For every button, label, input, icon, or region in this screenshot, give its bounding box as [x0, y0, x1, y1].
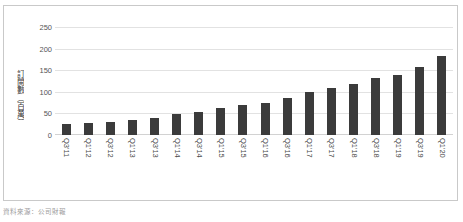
bar[interactable]: [261, 103, 270, 135]
x-axis-tick-label: Q1'17: [305, 138, 314, 158]
x-axis-tick-label: Q3'18: [371, 138, 380, 158]
bar[interactable]: [349, 84, 358, 135]
x-axis-tick-label: Q1'19: [393, 138, 402, 158]
x-axis-tick-labels: Q3'11Q1'12Q3'12Q1'13Q3'13Q1'14Q3'14Q1'15…: [55, 137, 453, 181]
x-axis-tick-label: Q3'19: [415, 138, 424, 158]
bar-series: [55, 27, 453, 135]
x-axis-tick-label: Q1'15: [216, 138, 225, 158]
x-axis-tick-label: Q3'14: [194, 138, 203, 158]
x-axis-tick: Q1'12: [84, 137, 93, 181]
chart-frame: 訂閱數（百萬） 250200150100500 Q3'11Q1'12Q3'12Q…: [3, 5, 458, 201]
x-axis-tick-label: Q1'13: [128, 138, 137, 158]
x-axis-tick-label: Q1'14: [172, 138, 181, 158]
y-axis-tick-150: 150: [26, 66, 52, 75]
x-axis-tick: Q3'11: [62, 137, 71, 181]
bar[interactable]: [283, 98, 292, 135]
bar[interactable]: [150, 118, 159, 135]
bar[interactable]: [128, 120, 137, 135]
x-axis-tick-label: Q1'16: [261, 138, 270, 158]
bar[interactable]: [393, 75, 402, 135]
x-axis-tick: Q1'20: [437, 137, 446, 181]
x-axis-tick: Q3'19: [415, 137, 424, 181]
x-axis-tick: Q3'17: [327, 137, 336, 181]
x-axis-tick: Q3'14: [194, 137, 203, 181]
y-axis-tick-0: 0: [26, 131, 52, 140]
x-axis-tick: Q3'16: [283, 137, 292, 181]
bar[interactable]: [437, 56, 446, 135]
x-axis-tick: Q1'17: [305, 137, 314, 181]
y-axis-tick-200: 200: [26, 44, 52, 53]
bar[interactable]: [106, 122, 115, 135]
x-axis-tick-label: Q1'12: [84, 138, 93, 158]
bar[interactable]: [62, 124, 71, 135]
x-axis-tick: Q3'18: [371, 137, 380, 181]
x-axis-tick-label: Q1'20: [437, 138, 446, 158]
bar[interactable]: [84, 123, 93, 135]
x-axis-tick-label: Q3'11: [62, 138, 71, 157]
x-axis-tick-label: Q3'15: [238, 138, 247, 158]
bar[interactable]: [194, 112, 203, 135]
bar[interactable]: [305, 92, 314, 135]
y-axis-tick-250: 250: [26, 23, 52, 32]
x-axis-tick-label: Q3'13: [150, 138, 159, 158]
bar[interactable]: [327, 88, 336, 135]
y-axis-tick-100: 100: [26, 87, 52, 96]
bar[interactable]: [216, 108, 225, 135]
x-axis-tick: Q1'15: [216, 137, 225, 181]
x-axis-tick-label: Q3'16: [283, 138, 292, 158]
x-axis-tick: Q3'12: [106, 137, 115, 181]
x-axis-tick-label: Q3'12: [106, 138, 115, 158]
x-axis-tick: Q1'16: [261, 137, 270, 181]
x-axis-tick: Q1'14: [172, 137, 181, 181]
x-axis-tick-label: Q3'17: [327, 138, 336, 158]
chart-caption: 資料來源：公司財報: [3, 206, 243, 216]
x-axis-tick: Q3'13: [150, 137, 159, 181]
y-axis-tick-labels: 250200150100500: [22, 6, 52, 202]
x-axis-tick: Q3'15: [238, 137, 247, 181]
bar[interactable]: [415, 67, 424, 135]
bar[interactable]: [371, 78, 380, 135]
y-axis-tick-50: 50: [26, 109, 52, 118]
x-axis-tick-label: Q1'18: [349, 138, 358, 158]
bar[interactable]: [238, 105, 247, 135]
x-axis-tick: Q1'18: [349, 137, 358, 181]
x-axis-tick: Q1'19: [393, 137, 402, 181]
x-axis-tick: Q1'13: [128, 137, 137, 181]
bar[interactable]: [172, 114, 181, 135]
